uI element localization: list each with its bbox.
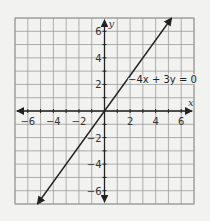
x-tick-label: −4: [46, 116, 61, 127]
y-tick-label: 2: [95, 79, 101, 90]
x-tick-label: 2: [127, 116, 133, 127]
x-tick-label: 4: [152, 116, 158, 127]
y-tick-label: 6: [95, 26, 101, 37]
x-tick-label: −6: [20, 116, 35, 127]
coordinate-plane: −6−4−2246642−2−4−6 x y −4x + 3y = 0: [0, 0, 210, 221]
x-tick-label: −2: [72, 116, 87, 127]
y-tick-label: −6: [87, 186, 102, 197]
y-axis-label: y: [108, 18, 115, 29]
equation-label: −4x + 3y = 0: [128, 74, 197, 85]
y-tick-label: 4: [95, 53, 101, 64]
y-tick-label: −4: [87, 159, 102, 170]
y-tick-label: −2: [87, 133, 102, 144]
x-tick-label: 6: [178, 116, 184, 127]
x-axis-label: x: [188, 97, 194, 108]
